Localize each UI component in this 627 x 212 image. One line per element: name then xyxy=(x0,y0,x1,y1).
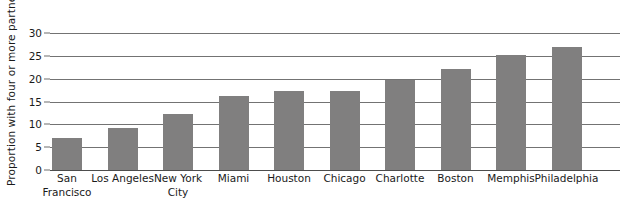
gridline xyxy=(50,79,620,80)
plot-area xyxy=(50,33,620,170)
y-axis-title: Proportion with four or more partners xyxy=(2,8,20,186)
x-axis-line xyxy=(50,170,620,171)
bar xyxy=(108,128,138,170)
y-axis-tick-label: 25 xyxy=(20,50,42,62)
gridline xyxy=(50,56,620,57)
y-axis-tick-label: 10 xyxy=(20,118,42,130)
gridline xyxy=(50,33,620,34)
y-axis-tick-mark xyxy=(44,55,50,56)
x-axis-category-labels: SanFranciscoLos AngelesNew YorkCityMiami… xyxy=(50,172,627,212)
y-axis-tick-mark xyxy=(44,124,50,125)
y-axis-tick-mark xyxy=(44,147,50,148)
bar xyxy=(163,114,193,170)
y-axis-tick-mark xyxy=(44,78,50,79)
y-axis-tick-label: 20 xyxy=(20,73,42,85)
y-axis-tick-label: 5 xyxy=(20,141,42,153)
bar xyxy=(441,69,471,170)
bar xyxy=(496,55,526,170)
y-axis-tick-label: 15 xyxy=(20,96,42,108)
bar-chart-figure: Proportion with four or more partners 05… xyxy=(0,0,627,212)
y-axis-tick-mark xyxy=(44,33,50,34)
bar xyxy=(219,96,249,170)
y-axis-tick-label: 30 xyxy=(20,27,42,39)
bar xyxy=(552,47,582,170)
x-axis-category-label-line: Philadelphia xyxy=(525,172,609,186)
y-axis-tick-mark xyxy=(44,170,50,171)
y-axis-tick-mark xyxy=(44,101,50,102)
bar xyxy=(274,91,304,170)
x-axis-category-label: Philadelphia xyxy=(525,172,609,186)
bar xyxy=(330,91,360,170)
bar xyxy=(52,138,82,170)
bar xyxy=(385,80,415,170)
x-axis-category-label-line: Francisco xyxy=(25,186,109,200)
x-axis-category-label-line: City xyxy=(136,186,220,200)
